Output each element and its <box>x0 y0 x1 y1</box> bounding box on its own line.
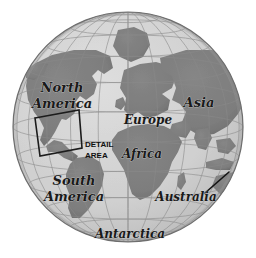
globe-locator-figure: North America South America Europe Afric… <box>0 0 256 258</box>
label-europe: Europe <box>123 113 173 127</box>
label-north-america-line2: America <box>30 96 92 111</box>
label-south-america-line2: America <box>42 189 104 204</box>
label-australia: Australia <box>154 190 216 204</box>
globe-map-svg: North America South America Europe Afric… <box>0 0 256 258</box>
detail-area-label-line2: AREA <box>85 151 108 160</box>
label-north-america-line1: North <box>40 80 84 95</box>
label-asia: Asia <box>182 95 215 110</box>
detail-area-label-line1: DETAIL <box>85 140 113 149</box>
label-antarctica: Antarctica <box>94 227 165 241</box>
label-africa: Africa <box>121 147 162 161</box>
label-south-america-line1: South <box>53 173 96 188</box>
